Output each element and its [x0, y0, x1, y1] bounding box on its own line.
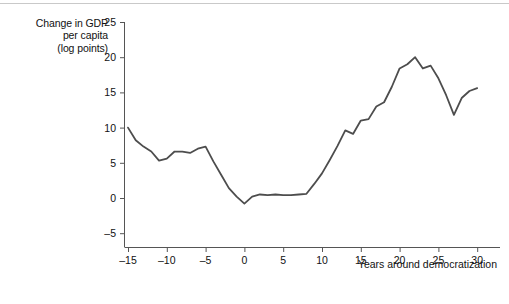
y-axis-tick-label: 25 [104, 16, 116, 28]
x-axis-tick-label: –15 [119, 254, 137, 266]
x-axis-tick-label: –5 [200, 254, 212, 266]
x-axis-tick-label: –10 [158, 254, 176, 266]
y-axis-tick-label: –5 [104, 227, 116, 239]
y-axis-tick-label: 10 [104, 122, 116, 134]
x-axis-tick-label: 5 [280, 254, 286, 266]
y-axis-tick-label: 20 [104, 51, 116, 63]
line-chart: –50510152025 –15–10–5051015202530 Years … [0, 0, 509, 304]
data-series-line [128, 57, 477, 203]
y-axis-tick-label: 0 [110, 192, 116, 204]
y-axis-tick-label: 15 [104, 86, 116, 98]
y-axis-ticks: –50510152025 [104, 16, 124, 239]
y-axis-tick-label: 5 [110, 157, 116, 169]
clipped-caption-fragment [0, 295, 509, 304]
x-axis-tick-label: 0 [241, 254, 247, 266]
x-axis-tick-label: 10 [316, 254, 328, 266]
figure-panel: Change in GDP per capita (log points) –5… [0, 0, 509, 304]
x-axis-title: Years around democratization [358, 258, 497, 270]
